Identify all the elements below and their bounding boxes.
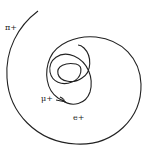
pion-track <box>7 11 141 144</box>
muon-label: μ+ <box>41 95 53 103</box>
electron-label: e+ <box>73 114 84 122</box>
pion-label: π+ <box>5 24 17 32</box>
electron-track <box>50 45 91 104</box>
track-diagram <box>0 0 154 153</box>
